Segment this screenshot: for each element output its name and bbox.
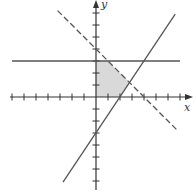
line-y-1-5x-3 [63, 14, 175, 182]
x-axis-label: x [184, 101, 191, 114]
coordinate-plane: x y [0, 0, 196, 194]
line-x-y-4 [58, 11, 178, 131]
shaded-feasible-region [96, 61, 130, 97]
x-axis-arrow-icon [185, 94, 193, 100]
y-axis-label: y [100, 0, 108, 11]
shaded-polygon [96, 61, 130, 97]
y-axis-arrow-icon [93, 0, 99, 8]
